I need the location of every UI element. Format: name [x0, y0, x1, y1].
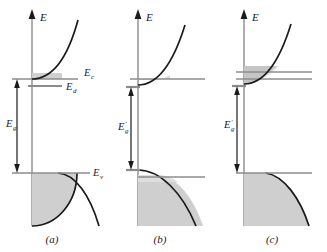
panel-a-conduction-level-label: E c [83, 67, 95, 81]
panel-a: E E v E c E d [5, 9, 104, 246]
panel-c-conduction-band-fill-inner [244, 66, 279, 84]
panel-b-gap-label: E ′ g [117, 120, 129, 135]
panel-b-gap-arrow-head-down [128, 161, 134, 170]
svg-text:c: c [91, 73, 95, 81]
svg-text:g: g [13, 124, 17, 132]
panel-a-donor-level-label: E d [65, 81, 77, 95]
panel-a-gap-arrow-head-down [14, 164, 20, 173]
panel-b: E E ′ g (b) [117, 9, 205, 246]
svg-text:g: g [125, 127, 129, 135]
svg-text:v: v [100, 173, 104, 181]
svg-text:g: g [231, 125, 235, 133]
panel-c: E E ′ g (c) [223, 9, 312, 246]
panel-c-valence-band-fill [244, 173, 309, 226]
panel-b-axis-arrowhead [135, 9, 142, 19]
svg-text:E: E [5, 118, 13, 129]
panel-a-axis-arrowhead [29, 9, 36, 19]
panel-c-gap-arrow-head-down [234, 164, 240, 173]
svg-text:E: E [83, 67, 91, 78]
panel-c-gap-label: E ′ g [223, 118, 235, 133]
panel-b-caption: (b) [154, 233, 167, 246]
panel-a-valence-level-label: E v [92, 167, 104, 181]
svg-text:E: E [92, 167, 100, 178]
svg-text:E: E [223, 119, 231, 130]
panel-a-caption: (a) [46, 233, 59, 246]
panel-a-conduction-band-curve [32, 20, 78, 79]
panel-b-axis-label: E [145, 11, 153, 23]
panel-c-gap-arrow-head-up [234, 86, 240, 95]
svg-text:E: E [117, 121, 125, 132]
panel-b-conduction-band-curve [138, 25, 185, 85]
panel-b-gap-arrow-head-up [128, 87, 134, 96]
panel-a-axis-label: E [39, 11, 47, 23]
panel-c-axis-label: E [251, 11, 259, 23]
panel-c-axis-arrowhead [241, 9, 248, 19]
svg-text:E: E [65, 81, 73, 92]
panel-c-caption: (c) [266, 233, 279, 246]
panel-a-gap-label: E g [5, 118, 17, 132]
band-diagram-figure: E E v E c E d [0, 0, 327, 252]
svg-text:d: d [73, 87, 77, 95]
panel-a-gap-arrow-head-up [14, 79, 20, 88]
